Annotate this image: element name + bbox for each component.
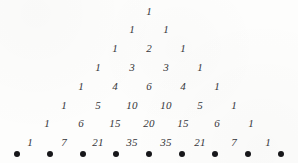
triangle-cell: 10 (149, 99, 183, 112)
triangle-row: 1331 (0, 60, 298, 74)
triangle-row: 172135352171 (0, 136, 298, 150)
triangle-cell: 1 (81, 61, 115, 74)
triangle-row: 11 (0, 23, 298, 37)
pascals-triangle-figure: 1111211331146411510105116152015611721353… (0, 0, 298, 163)
triangle-cell: 15 (166, 117, 200, 130)
triangle-cell: 15 (98, 117, 132, 130)
triangle-cell: 3 (149, 61, 183, 74)
triangle-cell: 1 (234, 117, 268, 130)
triangle-cell: 1 (166, 42, 200, 55)
triangle-cell: 5 (81, 99, 115, 112)
triangle-cell: 1 (64, 80, 98, 93)
dot-slot (0, 151, 33, 157)
triangle-cell: 2 (132, 42, 166, 55)
triangle-cell: 4 (98, 80, 132, 93)
triangle-row: 15101051 (0, 98, 298, 112)
triangle-cell: 1 (183, 61, 217, 74)
triangle-row: 14641 (0, 79, 298, 93)
dot-slot (199, 151, 232, 157)
triangle-row: 1 (0, 4, 298, 18)
triangle-cell: 1 (30, 117, 64, 130)
dot-slot (66, 151, 99, 157)
triangle-cell: 20 (132, 117, 166, 130)
dot-slot (265, 151, 298, 157)
triangle-cell: 5 (183, 99, 217, 112)
triangle-row: 1615201561 (0, 117, 298, 131)
triangle-cell: 21 (183, 136, 217, 149)
bullet-dot-icon (146, 151, 152, 157)
triangle-cell: 35 (149, 136, 183, 149)
triangle-cell: 7 (217, 136, 251, 149)
triangle-cell: 6 (200, 117, 234, 130)
bullet-dot-icon (278, 151, 284, 157)
dot-slot (99, 151, 132, 157)
triangle-cell: 1 (149, 23, 183, 36)
triangle-cell: 7 (47, 136, 81, 149)
triangle-cell: 1 (13, 136, 47, 149)
bullet-dot-icon (80, 151, 86, 157)
triangle-row: 121 (0, 42, 298, 56)
triangle-cell: 1 (132, 5, 166, 18)
triangle-cell: 1 (98, 42, 132, 55)
triangle-cell: 35 (115, 136, 149, 149)
triangle-cell: 6 (64, 117, 98, 130)
triangle-cell: 10 (115, 99, 149, 112)
triangle-cell: 21 (81, 136, 115, 149)
dot-slot (166, 151, 199, 157)
triangle-cell: 6 (132, 80, 166, 93)
triangle-rows: 1111211331146411510105116152015611721353… (0, 0, 298, 163)
bullet-dot-icon (47, 151, 53, 157)
triangle-cell: 1 (47, 99, 81, 112)
bullet-dot-icon (245, 151, 251, 157)
bullet-dot-icon (14, 151, 20, 157)
dot-slot (33, 151, 66, 157)
triangle-cell: 1 (217, 99, 251, 112)
triangle-cell: 1 (115, 23, 149, 36)
bullet-dot-icon (179, 151, 185, 157)
dot-slot (132, 151, 165, 157)
triangle-cell: 1 (251, 136, 285, 149)
triangle-cell: 4 (166, 80, 200, 93)
bullet-dot-icon (212, 151, 218, 157)
bullet-dot-icon (113, 151, 119, 157)
dot-slot (232, 151, 265, 157)
triangle-cell: 1 (200, 80, 234, 93)
dots-row (0, 149, 298, 159)
triangle-cell: 3 (115, 61, 149, 74)
